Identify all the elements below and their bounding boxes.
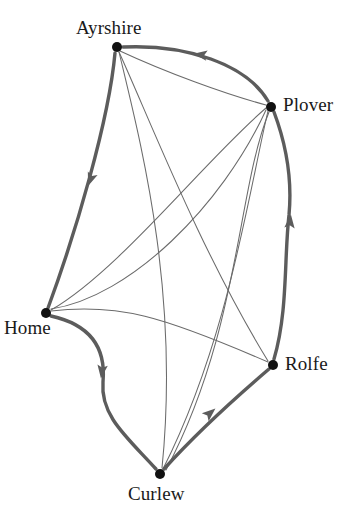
graph-canvas [0,0,356,524]
arrowhead-rolfe-plover [284,214,296,229]
edge-curlew-rolfe [164,369,269,469]
graph-diagram: Ayrshire Plover Home Rolfe Curlew [0,0,356,524]
edge-home-rolfe [51,309,268,362]
node-ayrshire [112,42,122,52]
edge-ayrshire-plover [120,51,266,105]
thin-chord-edges [51,51,269,470]
edge-home-plover-b [51,110,266,309]
edge-rolfe-plover [274,112,290,359]
edge-ayrshire-home [48,53,115,308]
node-label-curlew: Curlew [128,484,185,503]
node-plover [266,102,276,112]
node-label-rolfe: Rolfe [285,354,328,373]
edge-home-curlew [51,316,156,469]
node-rolfe [268,360,278,370]
node-label-home: Home [4,318,51,337]
edge-home-plover-a [51,108,266,310]
node-label-plover: Plover [283,95,333,114]
node-label-ayrshire: Ayrshire [76,18,142,37]
arrowhead-curlew-rolfe [202,404,219,421]
edge-ayrshire-curlew [119,52,167,468]
edge-ayrshire-rolfe [119,52,268,361]
node-curlew [155,469,165,479]
thick-tour-edges [48,47,290,469]
